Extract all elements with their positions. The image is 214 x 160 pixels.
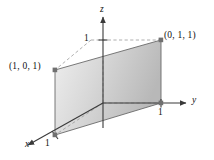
figure-3d-plane-diagram: z y x 1 1 1 (0, 1, 1) (1, 0, 1) bbox=[0, 0, 214, 160]
vertex-marker-1-0-1 bbox=[53, 68, 58, 73]
diagram-canvas bbox=[0, 0, 214, 160]
y-axis-label: y bbox=[192, 96, 196, 106]
z-tick-label-one: 1 bbox=[84, 34, 89, 44]
vertex-marker-1-0-0 bbox=[53, 133, 58, 138]
vertex-marker-0-1-0 bbox=[159, 101, 164, 106]
x-tick-label-one: 1 bbox=[45, 139, 50, 149]
vertex-marker-0-1-1 bbox=[159, 38, 164, 43]
x-axis-label: x bbox=[25, 140, 29, 150]
point-label-top-right: (0, 1, 1) bbox=[164, 31, 196, 41]
z-axis-label: z bbox=[100, 5, 104, 15]
point-label-left: (1, 0, 1) bbox=[9, 62, 41, 72]
y-tick-label-one: 1 bbox=[158, 108, 163, 118]
